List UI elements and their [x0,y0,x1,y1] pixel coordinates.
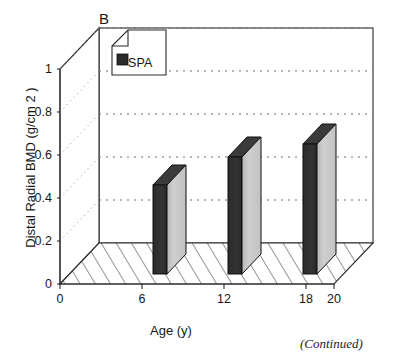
bar-side-face [242,137,261,274]
legend-swatch-spa [117,54,128,65]
y-tick-label-1: 1 [18,62,52,76]
x-tick-label-12: 12 [209,292,239,306]
x-axis [60,284,334,289]
y-tick-label-0-4: 0.4 [18,191,52,205]
bar-age-6 [153,165,186,274]
y-tick-label-0-2: 0.2 [18,234,52,248]
y-tick-label-0-8: 0.8 [18,105,52,119]
x-tick-label-6: 6 [127,292,157,306]
panel-letter-b: B [99,10,109,27]
x-tick-label-18: 18 [291,292,321,306]
bar-front-face [153,185,167,274]
bar-side-face [317,124,336,274]
bar-front-face [228,157,242,274]
legend-label-spa: SPA [128,56,152,70]
y-tick-label-0-6: 0.6 [18,148,52,162]
y-axis-label-exponent: 2 ) [23,87,38,106]
bar-side-face [167,165,186,274]
bar-front-face [303,144,317,274]
x-tick-label-20: 20 [319,292,349,306]
x-axis-label: Age (y) [150,323,192,338]
bar-age-12 [228,137,261,274]
bar-age-18 [303,124,336,274]
y-tick-label-0: 0 [18,277,52,291]
continued-note: (Continued) [300,336,363,352]
chart-canvas [0,0,399,364]
y-axis [57,69,60,284]
x-tick-label-0: 0 [45,292,75,306]
left-wall [60,28,99,284]
y-axis-label-main: Distal Radial BMD (g/cm [23,106,38,248]
figure-panel-b: B Distal Radial BMD (g/cm 2 ) 0 0.2 0.4 … [0,0,399,364]
